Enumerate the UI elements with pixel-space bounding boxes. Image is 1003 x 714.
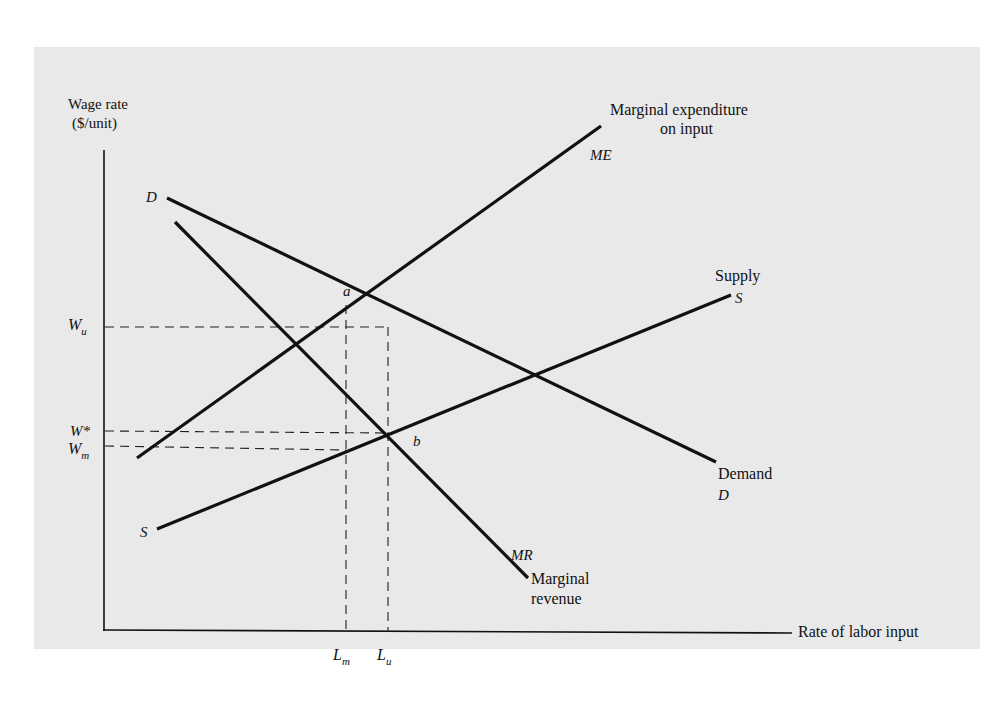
mr-curve-label-line2: revenue [531, 590, 582, 607]
demand-curve-label: Demand [718, 465, 772, 482]
wu-sub: u [81, 325, 87, 337]
y-axis-label-line1: Wage rate [68, 96, 128, 112]
mr-curve-symbol: MR [510, 547, 533, 563]
x-axis-label: Rate of labor input [798, 623, 919, 641]
wm-tick-label: Wm [68, 440, 89, 461]
lu-main: L [376, 646, 386, 663]
x-axis [103, 630, 792, 633]
me-curve-label-line1: Marginal expenditure [610, 101, 748, 119]
demand-curve [167, 198, 716, 462]
y-axis-label-line2: ($/unit) [72, 115, 117, 132]
mr-curve-label-line1: Marginal [531, 570, 590, 588]
wstar-tick-label: W* [70, 423, 90, 439]
me-curve-label-line2: on input [660, 120, 713, 138]
wm-sub: m [81, 449, 89, 461]
lu-tick-label: Lu [376, 646, 392, 667]
point-a-label: a [343, 283, 351, 299]
wu-tick-label: Wu [68, 316, 87, 337]
labor-market-diagram: Wage rate ($/unit) Rate of labor input M… [0, 0, 1003, 714]
supply-end-symbol: S [735, 290, 743, 306]
me-curve-symbol: ME [589, 147, 612, 163]
lm-sub: m [342, 655, 350, 667]
wm-guide [105, 446, 346, 450]
marginal-expenditure-curve [137, 126, 601, 458]
lm-main: L [332, 646, 342, 663]
supply-start-symbol: S [140, 524, 148, 540]
dashed-guides [105, 305, 388, 632]
lm-tick-label: Lm [332, 646, 350, 667]
point-b-label: b [413, 433, 421, 449]
lu-sub: u [386, 655, 392, 667]
demand-end-symbol: D [717, 487, 729, 503]
demand-start-symbol: D [145, 189, 157, 205]
supply-curve-label: Supply [715, 267, 760, 285]
